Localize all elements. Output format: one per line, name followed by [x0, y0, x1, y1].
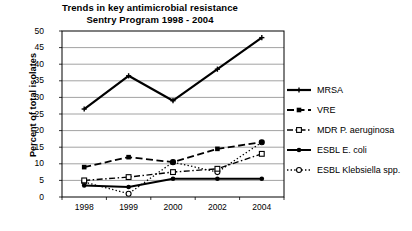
chart-container: Trends in key antimicrobial resistance S…	[0, 0, 412, 231]
x-tick-label: 2004	[242, 203, 282, 212]
open-circle-marker-key	[286, 163, 312, 177]
x-tick-label: 1998	[64, 203, 104, 212]
legend-label: ESBL E. coli	[317, 145, 367, 155]
legend-item[interactable]: VRE	[286, 100, 412, 120]
filled-square-marker-key	[286, 103, 312, 117]
plus-marker-key	[286, 83, 312, 97]
chart-legend: MRSAVREMDR P. aeruginosaESBL E. coliESBL…	[286, 80, 412, 180]
x-tick-label: 1999	[109, 203, 149, 212]
open-square-marker-key	[286, 123, 312, 137]
filled-circle-marker-key	[286, 143, 312, 157]
legend-label: VRE	[317, 105, 336, 115]
legend-label: ESBL Klebsiella spp.	[317, 165, 400, 175]
legend-label: MRSA	[317, 85, 343, 95]
legend-item[interactable]: ESBL E. coli	[286, 140, 412, 160]
x-tick-label: 2000	[153, 203, 193, 212]
x-tick-label: 2002	[197, 203, 237, 212]
legend-label: MDR P. aeruginosa	[317, 125, 394, 135]
legend-item[interactable]: MDR P. aeruginosa	[286, 120, 412, 140]
legend-item[interactable]: ESBL Klebsiella spp.	[286, 160, 412, 180]
legend-item[interactable]: MRSA	[286, 80, 412, 100]
